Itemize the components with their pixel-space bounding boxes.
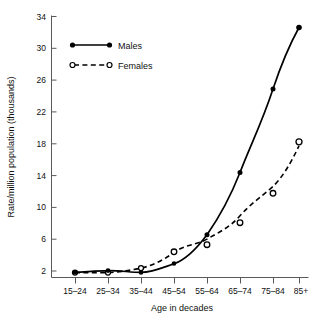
- data-point: [271, 87, 276, 92]
- data-point: [73, 270, 78, 275]
- series-females-line: [75, 146, 299, 273]
- line-chart: 34 30 26 22 18 14 10 6 2 15–24 25–34 35–…: [0, 0, 317, 328]
- data-point: [139, 266, 144, 271]
- data-point: [172, 261, 177, 266]
- y-tick-label: 6: [41, 234, 46, 244]
- x-tick-label: 65–74: [228, 286, 252, 296]
- series-males: [73, 25, 302, 275]
- y-axis-tick-labels: 34 30 26 22 18 14 10 6 2: [37, 12, 47, 277]
- legend-item-males: Males: [70, 41, 143, 51]
- data-point: [238, 170, 243, 175]
- data-point: [270, 191, 276, 197]
- legend-marker-females-end: [107, 63, 112, 68]
- legend-label-males: Males: [118, 41, 143, 51]
- x-axis-tick-labels: 15–24 25–34 35–44 45–54 55–64 65–74 75–8…: [63, 286, 308, 296]
- x-axis-ticks: [76, 278, 300, 284]
- data-point: [106, 268, 111, 273]
- data-point: [296, 139, 302, 145]
- y-axis-title: Rate/million population (thousands): [6, 76, 16, 217]
- x-tick-label: 15–24: [63, 286, 87, 296]
- series-males-markers: [73, 25, 302, 275]
- y-tick-label: 34: [37, 12, 47, 22]
- legend-marker-females-start: [70, 63, 75, 68]
- x-tick-label: 25–34: [96, 286, 120, 296]
- data-point: [204, 242, 210, 248]
- figure-caption: [0, 318, 317, 328]
- legend-marker-males-end: [107, 42, 112, 47]
- legend-marker-males-start: [70, 42, 75, 47]
- legend-item-females: Females: [70, 61, 153, 71]
- y-tick-label: 26: [37, 75, 47, 85]
- series-females-markers: [73, 139, 303, 275]
- x-tick-label: 45–54: [162, 286, 186, 296]
- figure-container: 34 30 26 22 18 14 10 6 2 15–24 25–34 35–…: [0, 0, 317, 328]
- y-tick-label: 30: [37, 43, 47, 53]
- data-point: [237, 220, 243, 226]
- y-tick-label: 2: [41, 266, 46, 276]
- y-axis-ticks: [52, 17, 57, 272]
- data-point: [205, 232, 210, 237]
- data-point: [139, 270, 144, 275]
- y-tick-label: 22: [37, 107, 47, 117]
- x-tick-label: 35–44: [129, 286, 153, 296]
- x-axis-title: Age in decades: [151, 303, 214, 313]
- y-tick-label: 14: [37, 171, 47, 181]
- x-tick-label: 85+: [294, 286, 308, 296]
- x-tick-label: 55–64: [195, 286, 219, 296]
- legend-label-females: Females: [118, 61, 153, 71]
- y-tick-label: 18: [37, 139, 47, 149]
- series-females: [73, 139, 303, 275]
- legend: Males Females: [70, 41, 153, 71]
- data-point: [171, 249, 177, 255]
- y-tick-label: 10: [37, 202, 47, 212]
- data-point: [296, 25, 302, 31]
- x-tick-label: 75–84: [261, 286, 285, 296]
